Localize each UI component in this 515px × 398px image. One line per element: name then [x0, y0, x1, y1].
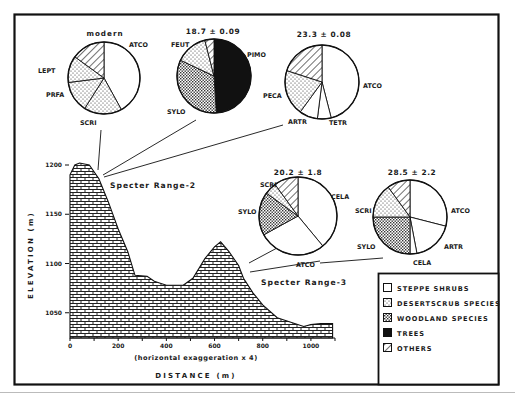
- svg-text:SYLO: SYLO: [357, 243, 376, 251]
- blank-swatch-icon: [384, 284, 392, 292]
- x-tick-label: 800: [256, 342, 269, 349]
- diagonal-swatch-icon: [384, 344, 392, 352]
- legend-item: STEPPE SHRUBS: [384, 284, 470, 294]
- x-tick-label: 200: [112, 342, 125, 349]
- legend-label: WOODLAND SPECIES: [397, 315, 489, 323]
- y-tick-label: 1050: [45, 309, 62, 316]
- pie-chart: [177, 39, 251, 113]
- pie-charts: [68, 39, 447, 255]
- svg-text:ATCO: ATCO: [296, 261, 315, 269]
- svg-text:PRFA: PRFA: [46, 91, 64, 99]
- svg-text:SYLO: SYLO: [167, 108, 186, 116]
- svg-text:ATCO: ATCO: [363, 82, 382, 90]
- x-axis-ticks: 02004006008001000: [68, 338, 335, 349]
- legend-label: DESERTSCRUB SPECIES: [397, 300, 501, 308]
- pie-chart: [285, 45, 359, 119]
- svg-text:ARTR: ARTR: [288, 118, 307, 126]
- legend-item: TREES: [384, 329, 425, 339]
- pie-title-28-5: 28.5 ± 2.2: [388, 168, 437, 177]
- pie-slice: [214, 39, 251, 113]
- legend-label: TREES: [397, 330, 425, 338]
- pie-title-20-2: 20.2 ± 1.8: [274, 168, 323, 177]
- legend: STEPPE SHRUBSDESERTSCRUB SPECIESWOODLAND…: [379, 274, 501, 385]
- site-label-specter-range-3: Specter Range-3: [261, 278, 347, 287]
- svg-text:CELA: CELA: [413, 259, 431, 267]
- pie-title-23-3: 23.3 ± 0.08: [297, 30, 351, 39]
- dots-swatch-icon: [384, 299, 392, 307]
- svg-text:LEPT: LEPT: [38, 67, 56, 75]
- svg-text:CELA: CELA: [331, 193, 349, 201]
- x-axis-note: (horizontal exaggeration x 4): [134, 354, 257, 362]
- y-tick-label: 1200: [45, 161, 62, 168]
- crosshatch-swatch-icon: [384, 314, 392, 322]
- y-tick-label: 1100: [45, 260, 62, 267]
- legend-label: STEPPE SHRUBS: [397, 285, 469, 293]
- svg-text:SCRI: SCRI: [80, 119, 97, 127]
- y-tick-label: 1150: [45, 210, 62, 217]
- legend-item: OTHERS: [384, 344, 433, 354]
- legend-label: OTHERS: [397, 345, 432, 353]
- x-tick-label: 400: [160, 342, 173, 349]
- pie-chart: [68, 42, 140, 114]
- svg-text:SYLO: SYLO: [238, 208, 257, 216]
- pie-title-modern: modern: [86, 29, 123, 38]
- svg-text:ATCO: ATCO: [451, 207, 470, 215]
- solid-swatch-icon: [384, 329, 392, 337]
- x-axis-label: DISTANCE (m): [155, 372, 236, 380]
- figure-canvas: 02004006008001000 1200115011001050 (hori…: [0, 0, 515, 398]
- svg-text:ARTR: ARTR: [444, 243, 463, 251]
- x-tick-label: 600: [208, 342, 221, 349]
- svg-text:FEUT: FEUT: [171, 41, 190, 49]
- page-rule: [0, 392, 515, 393]
- svg-text:TETR: TETR: [329, 119, 347, 127]
- svg-text:SCRI: SCRI: [355, 207, 372, 215]
- legend-item: WOODLAND SPECIES: [384, 314, 489, 324]
- y-axis-ticks: 1200115011001050: [45, 161, 69, 316]
- svg-text:PIMO: PIMO: [247, 51, 266, 59]
- svg-text:PECA: PECA: [263, 92, 282, 100]
- pie-chart: [373, 180, 447, 254]
- site-label-specter-range-2: Specter Range-2: [110, 181, 196, 190]
- legend-item: DESERTSCRUB SPECIES: [384, 299, 501, 309]
- svg-text:SCRI: SCRI: [260, 181, 277, 189]
- svg-text:ATCO: ATCO: [129, 41, 148, 49]
- pie-title-18-7: 18.7 ± 0.09: [186, 27, 240, 36]
- x-tick-label: 1000: [303, 342, 320, 349]
- y-axis-label: ELEVATION (m): [27, 211, 35, 299]
- x-tick-label: 0: [68, 342, 72, 349]
